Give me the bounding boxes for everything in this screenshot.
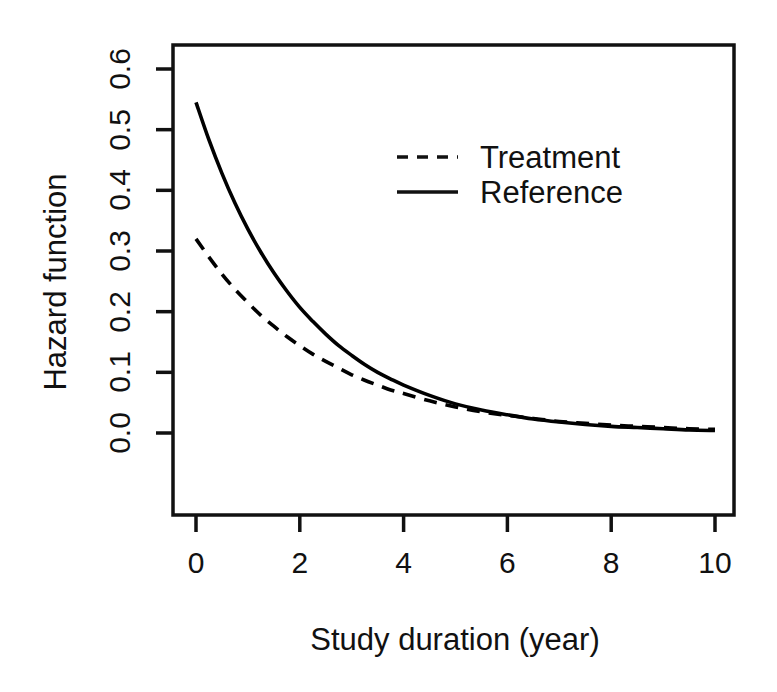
series-line-treatment bbox=[196, 239, 715, 429]
y-axis-title: Hazard function bbox=[40, 173, 71, 390]
x-tick-label: 6 bbox=[499, 548, 516, 578]
series-line-reference bbox=[196, 102, 715, 430]
x-tick-label: 8 bbox=[603, 548, 620, 578]
x-tick-label: 4 bbox=[395, 548, 412, 578]
x-tick-label: 2 bbox=[291, 548, 308, 578]
y-tick-label: 0.4 bbox=[105, 169, 135, 211]
x-tick-label: 10 bbox=[698, 548, 731, 578]
y-tick-label: 0.6 bbox=[105, 48, 135, 90]
y-tick-label: 0.1 bbox=[105, 351, 135, 393]
y-tick-label: 0.5 bbox=[105, 109, 135, 151]
legend-label-reference: Reference bbox=[480, 177, 623, 208]
plot-frame-box bbox=[173, 45, 734, 515]
x-tick-label: 0 bbox=[188, 548, 205, 578]
y-tick-label: 0.0 bbox=[105, 412, 135, 454]
plot-canvas bbox=[0, 0, 777, 692]
legend-label-treatment: Treatment bbox=[480, 142, 620, 173]
x-axis-ticks bbox=[196, 515, 715, 532]
hazard-function-chart: 0246810 0.00.10.20.30.40.50.6 Study dura… bbox=[0, 0, 777, 692]
y-axis-ticks bbox=[156, 69, 173, 433]
y-tick-label: 0.2 bbox=[105, 291, 135, 333]
y-tick-label: 0.3 bbox=[105, 230, 135, 272]
legend-line-samples bbox=[397, 157, 458, 192]
x-axis-title: Study duration (year) bbox=[310, 624, 599, 655]
data-series-group bbox=[196, 102, 715, 430]
